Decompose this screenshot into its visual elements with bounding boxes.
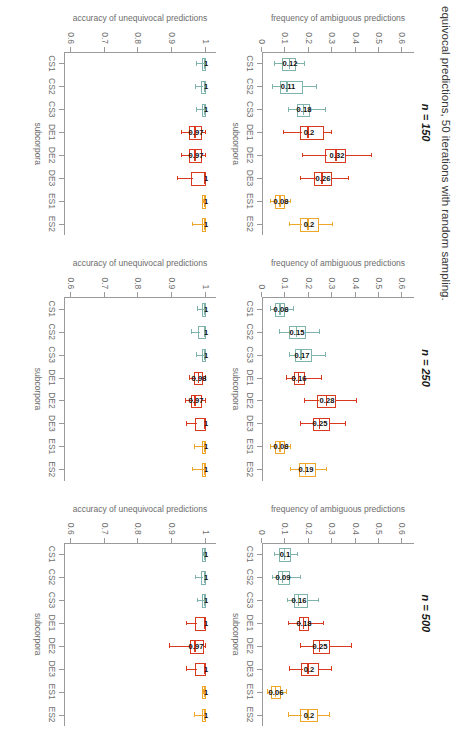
plot-wrap: 0.60.70.80.91CS1CS2CS3DE1DE2DE3ES1ES2sub…: [64, 297, 216, 480]
y-tick-label: 0.8: [133, 32, 143, 44]
y-tick: [70, 292, 71, 297]
plot-area: 0.60.70.80.91CS1CS2CS3DE1DE2DE3ES1ES2sub…: [64, 52, 216, 235]
whisker-cap-lower: [197, 306, 198, 311]
x-tick-label-cs1: CS1: [245, 55, 255, 72]
whisker-cap-lower: [186, 421, 187, 426]
box-plot-de1: 0.97: [64, 126, 216, 137]
x-tick-label-de3: DE3: [47, 660, 57, 677]
y-tick: [401, 292, 402, 297]
median-value-label: 0.06: [269, 687, 284, 696]
whisker-cap-lower: [181, 130, 182, 135]
whisker-cap-upper: [356, 398, 357, 403]
plot-wrap: 0.60.70.80.91CS1CS2CS3DE1DE2DE3ES1ES2sub…: [64, 52, 216, 235]
y-axis-line: [262, 543, 414, 544]
box-plot-de2: 0.97: [64, 395, 216, 406]
median-value-label: 1: [204, 595, 208, 604]
whisker-cap-lower: [191, 329, 192, 334]
x-tick-label-cs1: CS1: [245, 301, 255, 318]
x-axis-label: subcorpora: [33, 613, 43, 656]
median-value-label: 1: [204, 419, 208, 428]
y-tick: [104, 292, 105, 297]
box-plot-es1: 0.08: [262, 195, 414, 206]
whisker-upper: [336, 400, 357, 401]
y-tick-label: 0.6: [66, 278, 76, 290]
plot-area: 00.10.20.30.40.50.6CS1CS2CS3DE1DE2DE3ES1…: [262, 297, 414, 480]
whisker-cap-upper: [325, 107, 326, 112]
median-value-label: 0.16: [292, 595, 307, 604]
whisker-cap-lower: [195, 84, 196, 89]
x-axis-label: subcorpora: [33, 368, 43, 411]
y-axis-line: [64, 52, 216, 53]
y-tick: [378, 538, 379, 543]
y-tick-label: 0.6: [397, 32, 407, 44]
y-tick: [308, 538, 309, 543]
whisker-cap-upper: [205, 153, 206, 158]
box-plot-cs1: 1: [64, 303, 216, 314]
median-value-label: 0.18: [297, 105, 312, 114]
y-tick: [137, 47, 138, 52]
y-tick-label: 0.5: [374, 523, 384, 535]
box-plot-cs3: 1: [64, 349, 216, 360]
y-tick-label: 0.3: [327, 32, 337, 44]
box-plot-es1: 1: [64, 686, 216, 697]
box-plot-de3: 0.25: [262, 418, 414, 429]
box-plot-es2: 0.19: [262, 463, 414, 474]
whisker-upper: [319, 224, 333, 225]
subplot-bot: 0.60.70.80.91CS1CS2CS3DE1DE2DE3ES1ES2sub…: [22, 245, 218, 490]
x-tick-label-de2: DE2: [245, 147, 255, 164]
median-value-label: 1: [204, 327, 208, 336]
plot-area: 0.60.70.80.91CS1CS2CS3DE1DE2DE3ES1ES2sub…: [64, 297, 216, 480]
x-tick-label-es2: ES2: [245, 706, 255, 722]
x-tick-label-es1: ES1: [47, 193, 57, 209]
whisker-upper: [330, 423, 346, 424]
whisker-upper: [306, 332, 320, 333]
y-tick-label: 0.8: [133, 278, 143, 290]
whisker-cap-lower: [288, 712, 289, 717]
whisker-upper: [330, 646, 352, 647]
whisker-cap-lower: [300, 643, 301, 648]
y-axis-label: accuracy of unequivocal predictions: [73, 13, 208, 23]
y-axis-line: [64, 297, 216, 298]
median-value-label: 1: [204, 105, 208, 114]
whisker-upper: [303, 86, 317, 87]
box-plot-de3: 1: [64, 663, 216, 674]
plot-wrap: 00.10.20.30.40.50.6CS1CS2CS3DE1DE2DE3ES1…: [262, 297, 414, 480]
y-tick-label: 0.6: [66, 32, 76, 44]
median-value-label: 1: [204, 196, 208, 205]
whisker-cap-lower: [272, 575, 273, 580]
box-plot-es2: 1: [64, 218, 216, 229]
whisker-cap-upper: [205, 130, 206, 135]
median-value-label: 0.32: [329, 151, 344, 160]
whisker-cap-lower: [181, 153, 182, 158]
box-plot-cs1: 0.08: [262, 303, 414, 314]
x-axis-line: [262, 543, 263, 726]
whisker-cap-lower: [196, 352, 197, 357]
y-tick: [171, 538, 172, 543]
x-tick-label-cs3: CS3: [245, 101, 255, 118]
whisker-cap-lower: [272, 84, 273, 89]
x-tick-label-cs3: CS3: [47, 346, 57, 363]
y-tick-label: 0: [257, 530, 267, 535]
median-value-label: 0.08: [273, 196, 288, 205]
box-plot-cs2: 0.09: [262, 571, 414, 582]
x-tick-label-cs1: CS1: [245, 546, 255, 563]
whisker-cap-lower: [270, 199, 271, 204]
x-axis-line: [64, 297, 65, 480]
panel-n-500: n = 50000.10.20.30.40.50.6CS1CS2CS3DE1DE…: [4, 491, 434, 736]
median-value-label: 0.97: [188, 641, 203, 650]
box-plot-es2: 0.2: [262, 218, 414, 229]
subplot-bot: 0.60.70.80.91CS1CS2CS3DE1DE2DE3ES1ES2sub…: [22, 491, 218, 736]
median-value-label: 0.97: [188, 128, 203, 137]
y-tick-label: 0.2: [304, 523, 314, 535]
rotated-figure: equivocal predictions, 50 iterations wit…: [0, 0, 456, 736]
whisker-cap-upper: [205, 398, 206, 403]
y-tick-label: 0.4: [351, 278, 361, 290]
x-tick-label-de3: DE3: [245, 170, 255, 187]
whisker-cap-lower: [195, 575, 196, 580]
plot-area: 00.10.20.30.40.50.6CS1CS2CS3DE1DE2DE3ES1…: [262, 52, 414, 235]
x-tick-label-cs3: CS3: [47, 592, 57, 609]
whisker-cap-upper: [332, 222, 333, 227]
y-tick-label: 0.9: [167, 523, 177, 535]
whisker-cap-upper: [331, 130, 332, 135]
box-plot-cs3: 0.16: [262, 594, 414, 605]
